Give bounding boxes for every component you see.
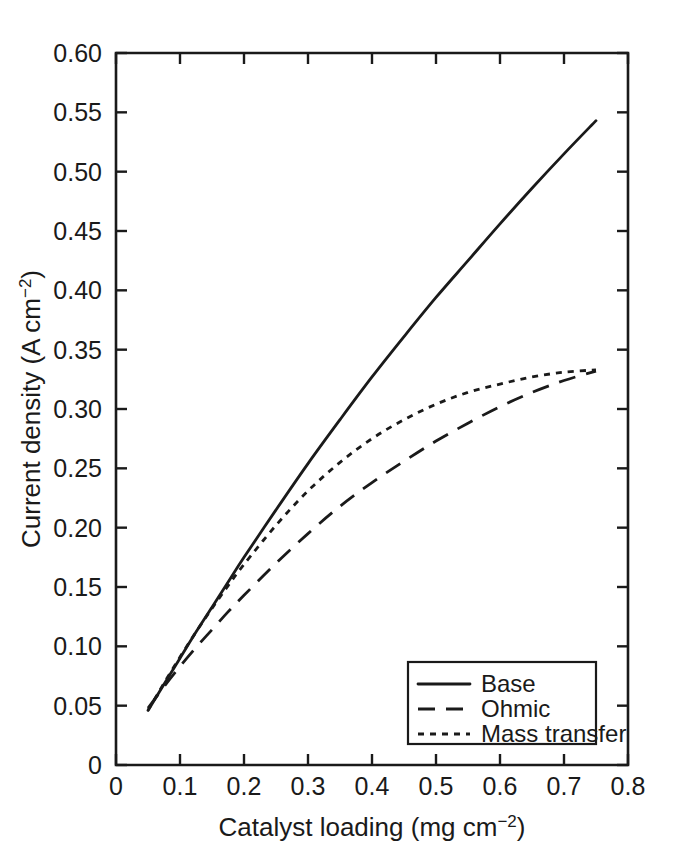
- x-tick-label-0: 0: [109, 772, 123, 800]
- y-tick-label-10: 0.50: [53, 158, 102, 186]
- series-base: [148, 121, 596, 711]
- y-tick-label-1: 0.05: [53, 692, 102, 720]
- series-ohmic: [148, 371, 596, 708]
- legend-label-base: Base: [481, 670, 536, 697]
- y-tick-label-4: 0.20: [53, 514, 102, 542]
- y-tick-label-12: 0.60: [53, 39, 102, 67]
- y-axis-tick-labels: 00.050.100.150.200.250.300.350.400.450.5…: [53, 39, 102, 779]
- x-tick-label-8: 0.8: [611, 772, 646, 800]
- y-tick-label-3: 0.15: [53, 573, 102, 601]
- chart-canvas: 00.10.20.30.40.50.60.70.8 00.050.100.150…: [0, 0, 675, 860]
- y-tick-label-7: 0.35: [53, 336, 102, 364]
- plot-frame: [116, 53, 628, 765]
- x-axis-title: Catalyst loading (mg cm−2): [219, 812, 526, 842]
- y-tick-label-6: 0.30: [53, 395, 102, 423]
- x-tick-label-4: 0.4: [355, 772, 390, 800]
- y-tick-label-5: 0.25: [53, 454, 102, 482]
- x-tick-label-1: 0.1: [163, 772, 198, 800]
- figure-container: 00.10.20.30.40.50.60.70.8 00.050.100.150…: [0, 0, 675, 860]
- legend-label-ohmic: Ohmic: [481, 695, 550, 722]
- legend-label-mass-transfer: Mass transfer: [481, 720, 626, 747]
- y-axis-title: Current density (A cm−2): [16, 270, 46, 548]
- x-tick-label-3: 0.3: [291, 772, 326, 800]
- y-tick-label-9: 0.45: [53, 217, 102, 245]
- y-tick-label-8: 0.40: [53, 276, 102, 304]
- series-mass-transfer: [148, 370, 596, 711]
- x-axis-tick-labels: 00.10.20.30.40.50.60.70.8: [109, 772, 645, 800]
- y-tick-label-2: 0.10: [53, 632, 102, 660]
- x-tick-label-6: 0.6: [483, 772, 518, 800]
- x-tick-label-7: 0.7: [547, 772, 582, 800]
- legend[interactable]: BaseOhmicMass transfer: [408, 662, 626, 747]
- x-tick-label-5: 0.5: [419, 772, 454, 800]
- x-axis-ticks: [116, 53, 628, 765]
- data-series-group: [148, 121, 596, 711]
- y-tick-label-0: 0: [88, 751, 102, 779]
- y-tick-label-11: 0.55: [53, 98, 102, 126]
- y-axis-ticks: [116, 53, 628, 765]
- x-tick-label-2: 0.2: [227, 772, 262, 800]
